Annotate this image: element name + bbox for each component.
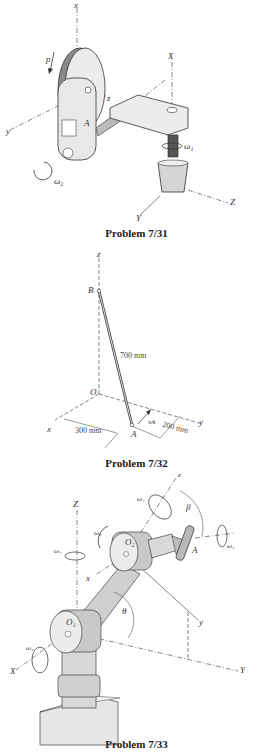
figure-problem-7-33: Z z ω₄ β ω₃ ω₁ O₂ A ω₅ x θ y O₁ ω₂ X Y P… <box>0 470 273 753</box>
joint-label-O2: O₂ <box>125 538 135 547</box>
figure-problem-7-31: x p X z y A ω₁ ω₂ Z Y Problem 7/31 <box>0 0 273 240</box>
origin-label-O: O <box>90 388 97 397</box>
label-omega2: ω₂ <box>26 645 33 652</box>
angle-label-beta: β <box>186 503 190 512</box>
point-label-B: B <box>88 286 94 295</box>
caption-problem-7-31: Problem 7/31 <box>0 227 273 239</box>
joint-label-O1: O₁ <box>66 618 76 627</box>
axis-label-p: p <box>46 55 51 64</box>
axis-label-X: X <box>168 52 174 61</box>
velocity-label-vA: vA <box>148 419 155 426</box>
angle-label-theta: θ <box>122 607 126 616</box>
dimension-300mm: 300 mm <box>75 427 101 435</box>
figure-problem-7-32: z B 700 mm O x 300 mm A vA 200 mm y Prob… <box>0 248 273 468</box>
label-omega4: ω₄ <box>137 496 144 503</box>
label-omega1: ω₁ <box>54 548 61 555</box>
point-label-A: A <box>84 119 90 128</box>
axis-label-z: z <box>97 250 101 259</box>
robot-arm-drawing-7-33 <box>0 470 273 753</box>
point-label-A: A <box>192 546 198 555</box>
axis-label-Z: Z <box>230 198 235 207</box>
axis-label-y: y <box>199 418 203 427</box>
axis-label-Y: Y <box>136 214 141 223</box>
label-omega3: ω₃ <box>94 530 101 537</box>
axis-label-z: z <box>107 94 111 103</box>
axis-label-x: x <box>74 1 78 10</box>
caption-problem-7-32: Problem 7/32 <box>0 457 273 469</box>
axis-label-x: x <box>47 425 51 434</box>
label-omega1: ω₁ <box>184 142 193 151</box>
axis-label-y: y <box>6 127 10 136</box>
caption-problem-7-33: Problem 7/33 <box>0 738 273 750</box>
axis-label-x: x <box>86 574 90 583</box>
axis-label-z: z <box>178 472 181 479</box>
axis-label-Y: Y <box>240 666 245 675</box>
rod-length-label: 700 mm <box>120 352 146 360</box>
axis-label-y: y <box>199 618 203 627</box>
axis-label-X: X <box>10 667 16 676</box>
label-omega2: ω₂ <box>54 177 63 186</box>
point-label-A: A <box>131 430 137 439</box>
axis-label-Z: Z <box>73 500 78 509</box>
label-omega5: ω₅ <box>227 543 234 550</box>
